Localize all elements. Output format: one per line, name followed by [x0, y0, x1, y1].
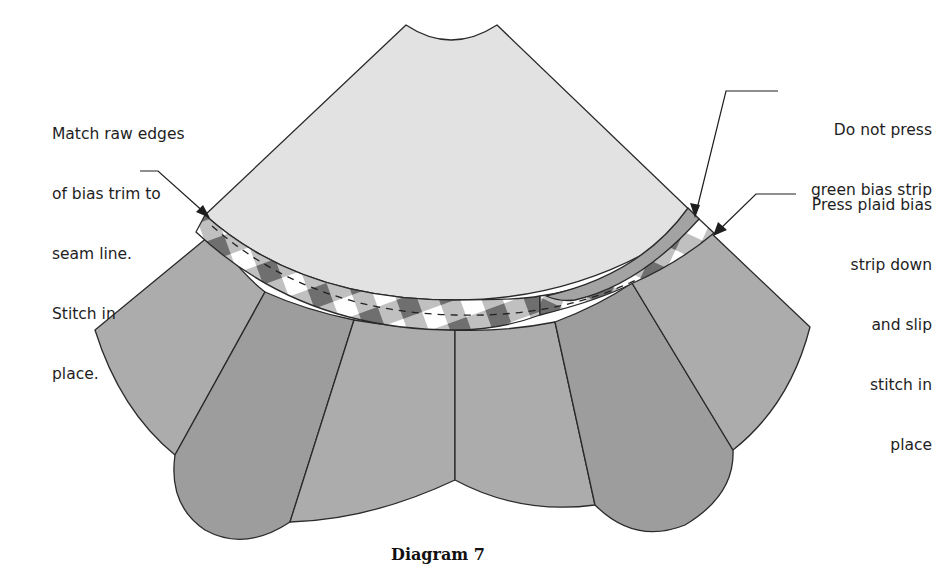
annotation-left-line: seam line.: [52, 244, 185, 264]
annotation-left: Match raw edges of bias trim to seam lin…: [52, 84, 185, 404]
annotation-top-right-line: Do not press: [811, 120, 932, 140]
annotation-right-line: strip down: [812, 255, 932, 275]
annotation-right-line: and slip: [812, 315, 932, 335]
leader-right: [716, 194, 796, 233]
annotation-right-line: stitch in: [812, 375, 932, 395]
figure-caption: Diagram 7: [391, 545, 485, 564]
annotation-right-line: Press plaid bias: [812, 195, 932, 215]
annotation-left-line: Match raw edges: [52, 124, 185, 144]
top-wedge: [205, 25, 699, 300]
annotation-left-line: Stitch in: [52, 304, 185, 324]
leader-top-right: [696, 91, 778, 213]
annotation-right-line: place: [812, 435, 932, 455]
annotation-left-line: place.: [52, 364, 185, 384]
annotation-right: Press plaid bias strip down and slip sti…: [812, 155, 932, 475]
annotation-left-line: of bias trim to: [52, 184, 185, 204]
